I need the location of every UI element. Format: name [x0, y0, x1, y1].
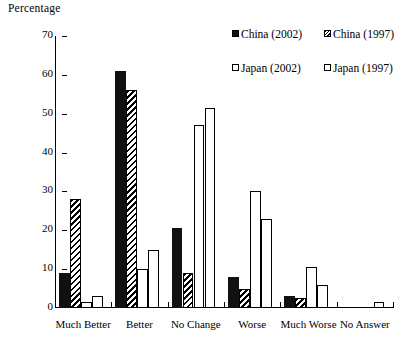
bar — [92, 296, 103, 308]
y-tick-label: 70 — [42, 28, 53, 40]
bar-group: Much Better — [55, 36, 111, 308]
x-tick-label: No Change — [168, 318, 224, 330]
bar — [148, 250, 159, 308]
x-axis-tick-mark — [111, 302, 112, 308]
y-tick-label: 0 — [48, 300, 54, 312]
bar — [59, 273, 70, 308]
x-tick-label: Much Better — [55, 318, 111, 330]
bar — [228, 277, 239, 308]
bar — [183, 273, 194, 308]
bar — [374, 302, 385, 308]
bar — [205, 108, 216, 308]
x-tick-label: No Answer — [337, 318, 393, 330]
x-axis-tick-mark — [224, 302, 225, 308]
bar — [295, 298, 306, 308]
bar-group: No Answer — [337, 36, 393, 308]
bar — [137, 269, 148, 308]
y-tick-label: 50 — [42, 106, 53, 118]
y-tick-label: 40 — [42, 145, 53, 157]
bar — [115, 71, 126, 308]
bar — [250, 191, 261, 308]
bar-group: Much Worse — [280, 36, 336, 308]
bar-group: Better — [111, 36, 167, 308]
bar-group: No Change — [168, 36, 224, 308]
bar — [239, 289, 250, 308]
x-axis-tick-mark — [168, 302, 169, 308]
y-tick-label: 10 — [42, 261, 53, 273]
bar — [284, 296, 295, 308]
bar — [70, 199, 81, 308]
y-axis-title: Percentage — [8, 2, 60, 14]
bar — [126, 90, 137, 308]
x-tick-label: Better — [111, 318, 167, 330]
bar-chart: Percentage China (2002) China (1997) Jap… — [0, 0, 415, 351]
bar — [261, 219, 272, 308]
bar — [194, 125, 205, 308]
bar — [81, 302, 92, 308]
x-tick-label: Worse — [224, 318, 280, 330]
bar — [317, 285, 328, 308]
y-tick-label: 30 — [42, 183, 53, 195]
x-axis-tick-mark — [280, 302, 281, 308]
bar-group: Worse — [224, 36, 280, 308]
bar — [306, 267, 317, 308]
y-tick-label: 60 — [42, 67, 53, 79]
x-tick-label: Much Worse — [280, 318, 336, 330]
plot-area: 010203040506070 Much BetterBetterNo Chan… — [55, 36, 393, 308]
y-tick-label: 20 — [42, 222, 53, 234]
bar — [172, 228, 183, 308]
x-axis-tick-mark — [337, 302, 338, 308]
x-axis-tick-mark — [393, 302, 394, 308]
